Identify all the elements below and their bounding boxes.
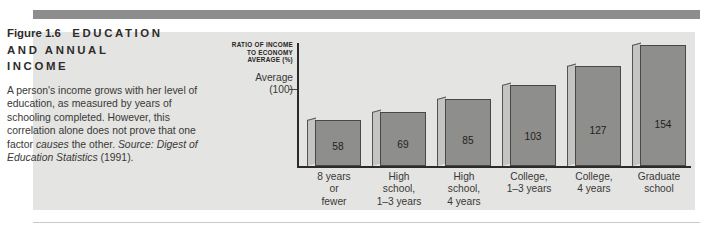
- x-axis-label-line: school: [644, 183, 673, 194]
- x-axis-label-line: fewer: [322, 196, 347, 207]
- x-axis-label-line: 8 years: [317, 171, 350, 182]
- x-axis-label-6: Graduateschool: [623, 171, 695, 196]
- bar-value-label: 85: [445, 135, 491, 146]
- top-divider-rule: [33, 10, 700, 19]
- bar-front-face: [640, 45, 686, 166]
- bar-4: 103: [502, 85, 556, 166]
- x-axis-label-2: Highschool,1–3 years: [363, 171, 435, 208]
- x-axis-label-line: 1–3 years: [377, 196, 422, 207]
- figure-page: Figure 1.6 EDUCATION AND ANNUAL INCOME A…: [0, 0, 716, 230]
- average-reference-tick: [289, 89, 297, 90]
- x-axis-label-line: school,: [448, 183, 480, 194]
- x-axis-label-1: 8 yearsorfewer: [298, 171, 370, 208]
- bar-front-face: [445, 99, 491, 166]
- bar-value-label: 58: [315, 141, 361, 152]
- x-axis-label-line: College,: [510, 171, 547, 182]
- x-axis-label-5: College,4 years: [558, 171, 630, 196]
- bar-value-label: 154: [640, 119, 686, 130]
- x-axis-label-line: 4 years: [447, 196, 480, 207]
- bottom-divider-rule: [33, 222, 700, 223]
- x-axis-label-line: 4 years: [577, 183, 610, 194]
- bar-1: 58: [307, 120, 361, 166]
- y-axis-title-line-3: AVERAGE (%): [247, 56, 293, 63]
- bar-5: 127: [567, 66, 621, 166]
- bar-front-face: [575, 66, 621, 166]
- bar-series: 586985103127154: [297, 32, 691, 168]
- x-axis-label-3: Highschool,4 years: [428, 171, 500, 208]
- bar-2: 69: [372, 112, 426, 166]
- y-axis-title: RATIO OF INCOME TO ECONOMY AVERAGE (%): [203, 41, 293, 64]
- average-reference-label-line-1: Average: [255, 72, 293, 83]
- x-axis-label-line: College,: [575, 171, 612, 182]
- bar-front-face: [510, 85, 556, 166]
- x-axis-label-line: or: [329, 183, 338, 194]
- bar-6: 154: [632, 45, 686, 166]
- bar-value-label: 69: [380, 139, 426, 150]
- bar-value-label: 127: [575, 125, 621, 136]
- x-axis-label-line: High: [389, 171, 410, 182]
- average-reference-label: Average (100): [201, 72, 293, 97]
- x-axis-label-4: College,1–3 years: [493, 171, 565, 196]
- x-axis-label-line: school,: [383, 183, 415, 194]
- bar-3: 85: [437, 99, 491, 166]
- bar-chart: RATIO OF INCOME TO ECONOMY AVERAGE (%) A…: [33, 32, 695, 210]
- y-axis-title-line-1: RATIO OF INCOME: [232, 41, 293, 48]
- bar-value-label: 103: [510, 131, 556, 142]
- x-axis-label-line: Graduate: [638, 171, 680, 182]
- y-axis-title-line-2: TO ECONOMY: [247, 49, 293, 56]
- x-axis-label-line: 1–3 years: [507, 183, 552, 194]
- x-axis-tick-labels: 8 yearsorfewerHighschool,1–3 yearsHighsc…: [297, 171, 691, 211]
- x-axis-label-line: High: [454, 171, 475, 182]
